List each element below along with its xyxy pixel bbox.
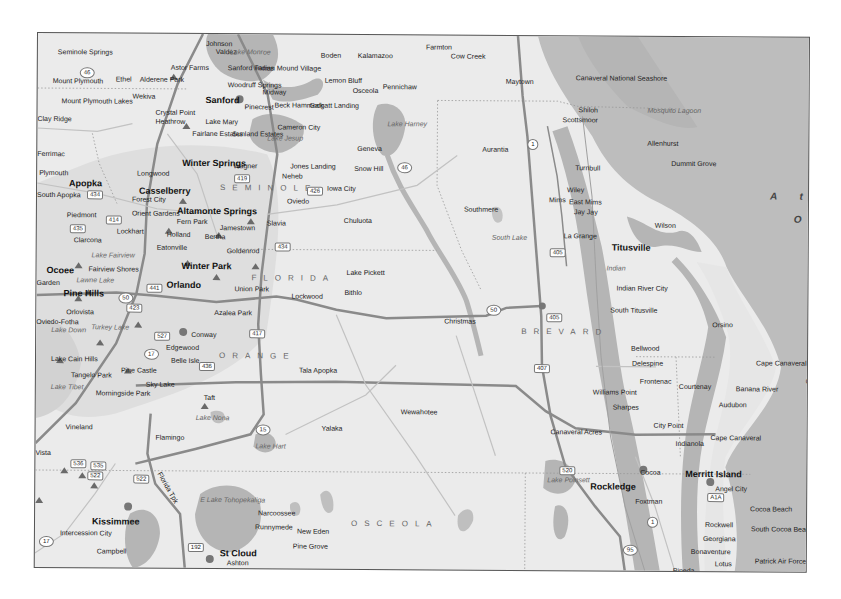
city-label: Angel City bbox=[715, 485, 747, 493]
route-shield: 15 bbox=[256, 424, 271, 435]
city-label: Chuluota bbox=[344, 217, 372, 225]
state-label: FLORIDA bbox=[251, 274, 335, 283]
city-label: Heathrow bbox=[155, 118, 185, 126]
water-label: Lake Fairview bbox=[92, 251, 135, 259]
city-label: Allenhurst bbox=[647, 140, 678, 148]
city-label: Sanford bbox=[206, 95, 240, 105]
city-label: Wilson bbox=[655, 222, 676, 230]
city-label: Rockledge bbox=[590, 481, 636, 491]
water-label: South Lake bbox=[492, 234, 527, 242]
city-label: Fern Park bbox=[177, 218, 208, 226]
city-label: Orsino bbox=[712, 321, 733, 329]
city-label: Bithlo bbox=[344, 289, 362, 297]
city-label: Narcoossee bbox=[258, 509, 295, 517]
route-shield: 426 bbox=[307, 187, 323, 196]
city-label: Intercession City bbox=[60, 529, 112, 537]
city-label: Aurantia bbox=[482, 146, 508, 154]
city-label: South Cocoa Beach bbox=[751, 525, 810, 533]
city-label: Indianola bbox=[675, 440, 703, 448]
city-label: Audubon bbox=[719, 401, 747, 409]
city-label: Frontenac bbox=[640, 378, 672, 386]
city-label: Canaveral National Seashore bbox=[576, 74, 668, 83]
city-label: Geneva bbox=[357, 145, 382, 153]
city-label: Shiloh bbox=[579, 106, 599, 114]
city-label: Lake Mary bbox=[205, 118, 238, 126]
city-label: Tala Apopka bbox=[299, 367, 337, 375]
city-label: Clay Ridge bbox=[37, 115, 71, 123]
city-label: Winter Park bbox=[182, 261, 232, 271]
city-label: Cape Canaveral bbox=[711, 434, 762, 442]
city-label: Williams Point bbox=[593, 388, 637, 396]
city-label: Orlovista bbox=[66, 308, 94, 316]
city-label: Apopka bbox=[69, 178, 102, 188]
route-shield: 95 bbox=[623, 545, 638, 556]
city-label: Belle Isle bbox=[171, 357, 199, 365]
water-label: Lawne Lake bbox=[76, 276, 114, 284]
route-shield: 434 bbox=[87, 190, 103, 199]
city-label: Wekiva bbox=[133, 93, 156, 101]
city-label: Orlando bbox=[166, 280, 201, 290]
city-label: Wagner bbox=[233, 162, 257, 170]
city-label: Pineda bbox=[673, 567, 695, 573]
city-label: Altamonte Springs bbox=[177, 206, 257, 216]
city-label: Dummit Grove bbox=[671, 160, 716, 168]
city-label: Osceola bbox=[353, 87, 379, 95]
city-label: Pine Castle bbox=[121, 367, 157, 375]
city-label: Pinecrest bbox=[245, 103, 274, 111]
city-label: Mims bbox=[549, 196, 566, 204]
city-label: Flamingo bbox=[155, 434, 184, 442]
city-label: Lake Pickett bbox=[347, 269, 385, 277]
city-label: Galgatt Landing bbox=[310, 102, 359, 110]
city-label: Jamestown bbox=[220, 224, 255, 232]
water-label: Lake Down bbox=[51, 326, 86, 334]
city-label: Cocoa Beach bbox=[750, 505, 792, 513]
city-label: Conway bbox=[191, 331, 216, 339]
city-label: Boden bbox=[321, 52, 341, 60]
route-shield: 405 bbox=[546, 313, 562, 322]
city-label: Cameron City bbox=[277, 123, 320, 131]
city-label: New Eden bbox=[297, 528, 329, 536]
city-label: Cocoa bbox=[640, 469, 660, 477]
city-label: Plymouth bbox=[39, 169, 68, 177]
water-label: Mosquito Lagoon bbox=[648, 107, 702, 115]
route-shield: 527 bbox=[154, 332, 170, 341]
city-label: Turnbull bbox=[575, 164, 600, 172]
water-label: Lake Jesup bbox=[267, 134, 303, 142]
city-label: Vineland bbox=[66, 423, 93, 431]
city-label: Morningside Park bbox=[96, 389, 151, 397]
city-label: Bonaventure bbox=[691, 548, 731, 556]
city-label: Slavia bbox=[267, 219, 286, 227]
map-view[interactable]: Seminole SpringsJohnsonValdezAstor Farms… bbox=[34, 32, 810, 573]
city-label: Merritt Island bbox=[685, 469, 742, 479]
city-label: Indian Mound Village bbox=[256, 64, 321, 72]
city-label: Alderene Park bbox=[140, 76, 184, 84]
city-label: Lockhart bbox=[117, 227, 144, 235]
route-shield: 522 bbox=[87, 471, 103, 480]
city-label: Garden bbox=[36, 279, 59, 287]
city-label: Lotus bbox=[715, 560, 732, 568]
route-shield: 17 bbox=[39, 536, 54, 547]
route-shield: A1A bbox=[707, 493, 724, 502]
city-label: Holland bbox=[167, 231, 191, 239]
city-label: Scottsmoor bbox=[562, 116, 597, 124]
city-label: Indian River City bbox=[616, 285, 667, 293]
county-label: BREVARD bbox=[521, 328, 608, 337]
city-label: Georgiana bbox=[703, 535, 736, 543]
city-label: Orient Gardens bbox=[132, 210, 180, 218]
city-label: Clarcona bbox=[74, 236, 102, 244]
route-shield: 405 bbox=[550, 248, 566, 257]
city-label: Banana River bbox=[736, 385, 778, 393]
water-label: Indian bbox=[607, 264, 626, 272]
city-label: Piedmont bbox=[67, 211, 97, 219]
city-label: Eatonville bbox=[157, 244, 187, 252]
water-label: Lake Harney bbox=[387, 120, 427, 128]
city-label: South Apopka bbox=[37, 191, 81, 199]
city-label: Mount Plymouth bbox=[53, 77, 104, 85]
city-label: Wewahotee bbox=[401, 408, 438, 416]
county-label: SEMINOLE bbox=[220, 184, 317, 193]
route-shield: 46 bbox=[80, 67, 95, 78]
route-shield: 50 bbox=[118, 293, 133, 304]
city-label: Jay Jay bbox=[574, 208, 598, 216]
city-label: Canaveral Acres bbox=[551, 428, 602, 436]
city-label: Sharpes bbox=[613, 404, 639, 412]
